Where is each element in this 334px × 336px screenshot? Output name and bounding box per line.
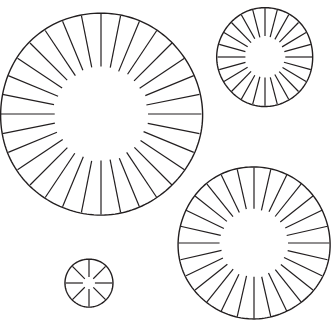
spoke-wheel <box>217 8 313 107</box>
spoke-wheel <box>1 13 203 215</box>
figure-canvas <box>0 0 334 336</box>
spoke-wheel <box>178 167 330 319</box>
spoke-wheel <box>65 259 113 307</box>
spoke-wheels-diagram <box>0 0 334 336</box>
